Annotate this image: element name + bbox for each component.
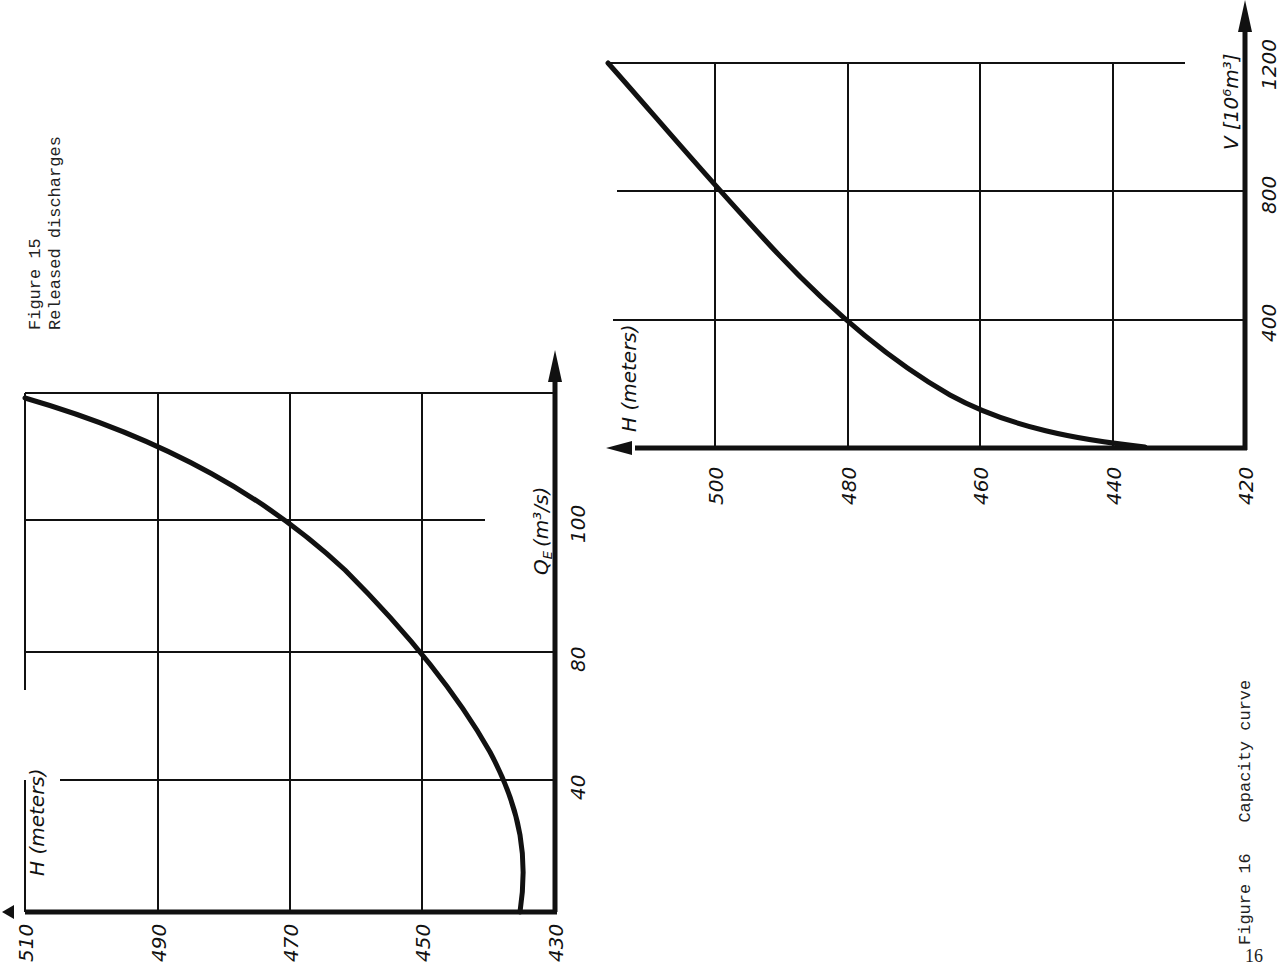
figure15-grid [25,393,555,912]
h-tick-450: 450 [411,924,435,962]
h-tick-420: 420 [1234,467,1258,505]
figure16-caption: Figure 16 Capacity curve [1236,680,1255,945]
q-tick-80: 80 [566,647,590,672]
figure15-caption-title: Released discharges [46,136,65,330]
figure15-h-axis-label: H (meters) [25,768,49,876]
figure15-q-axis-arrow-icon [548,350,562,382]
h-tick-480: 480 [837,467,861,505]
page-number: 16 [1245,946,1263,966]
figure15-caption-number: Figure 15 [26,238,45,330]
figure16-capacity-curve [608,63,1145,447]
figure16-h-ticks: 500 480 460 440 420 [704,467,1258,505]
page-canvas: 510 490 470 450 430 40 80 100 H (meters)… [0,0,1285,970]
svg-text:QE(m³/s): QE(m³/s) [529,487,555,575]
figure16-grid [608,63,1245,448]
h-tick-440: 440 [1102,467,1126,505]
h-tick-500: 500 [704,467,728,505]
figure16-chart: 500 480 460 440 420 400 800 1200 H (mete… [606,0,1281,945]
figure15-q-ticks: 40 80 100 [566,505,590,800]
h-tick-490: 490 [147,924,171,962]
figure16-h-axis-arrow-icon [606,441,632,455]
figure15-h-axis-arrow-icon [2,905,14,919]
figure15-h-ticks: 510 490 470 450 430 [14,924,568,962]
v-tick-1200: 1200 [1257,39,1281,90]
figure15-discharge-curve [25,398,523,912]
q-tick-100: 100 [566,505,590,543]
figure15-q-axis-label: QE(m³/s) [529,487,555,575]
h-tick-460: 460 [969,467,993,505]
figure16-v-axis-label: V [10⁶m³] [1219,53,1243,150]
figure16-v-ticks: 400 800 1200 [1257,39,1281,342]
figure16-h-axis-label: H (meters) [617,324,641,432]
v-tick-400: 400 [1257,304,1281,342]
h-tick-510: 510 [14,924,38,962]
v-tick-800: 800 [1257,176,1281,214]
figure15-chart: 510 490 470 450 430 40 80 100 H (meters)… [2,136,590,962]
h-tick-430: 430 [544,924,568,962]
h-tick-470: 470 [279,924,303,962]
figure16-v-axis-arrow-icon [1238,0,1252,32]
q-tick-40: 40 [566,775,590,800]
